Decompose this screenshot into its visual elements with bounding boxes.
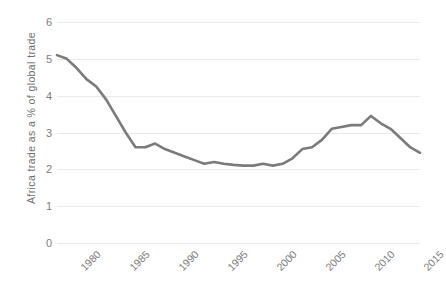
plot-area — [57, 22, 420, 243]
y-tick-label: 5 — [36, 53, 52, 64]
y-tick-label: 2 — [36, 164, 52, 175]
y-tick-label: 3 — [36, 127, 52, 138]
x-axis-tick-labels: 19801985199019952000200520102015 — [57, 248, 420, 289]
x-tick-label: 2010 — [372, 248, 397, 273]
x-tick-label: 2015 — [421, 248, 446, 273]
x-tick-label: 1995 — [225, 248, 250, 273]
x-tick-label: 1990 — [176, 248, 201, 273]
gridline — [57, 243, 420, 244]
x-tick-label: 1985 — [127, 248, 152, 273]
x-tick-label: 2005 — [323, 248, 348, 273]
x-tick-label: 2000 — [274, 248, 299, 273]
y-axis-tick-labels: 6543210 — [36, 0, 52, 289]
x-tick-label: 1980 — [78, 248, 103, 273]
series-polyline — [57, 55, 420, 165]
series-line-africa-trade — [57, 22, 420, 243]
y-tick-label: 1 — [36, 201, 52, 212]
y-tick-label: 4 — [36, 90, 52, 101]
y-tick-label: 0 — [36, 238, 52, 249]
y-tick-label: 6 — [36, 17, 52, 28]
